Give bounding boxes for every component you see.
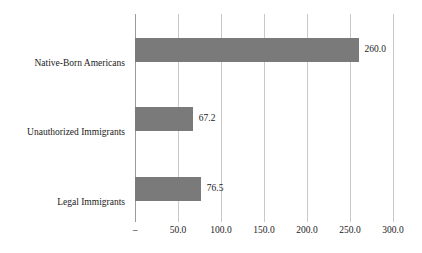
bar-chart: Native-Born Americans Unauthorized Immig…	[0, 0, 422, 253]
category-label: Legal Immigrants	[57, 198, 125, 208]
x-axis-tick-labels: – 50.0 100.0 150.0 200.0 250.0 300.0	[135, 226, 393, 246]
x-tick-label-0: –	[133, 226, 138, 236]
x-tick-label-150: 150.0	[253, 226, 274, 236]
gridline-300	[393, 14, 394, 222]
bar-native-born-americans[interactable]	[135, 38, 359, 62]
x-tick-label-100: 100.0	[210, 226, 231, 236]
bar-legal-immigrants[interactable]	[135, 177, 201, 201]
bar-unauthorized-immigrants[interactable]	[135, 107, 193, 131]
x-tick-label-250: 250.0	[339, 226, 360, 236]
bar-value-label: 260.0	[359, 45, 386, 55]
category-axis: Native-Born Americans Unauthorized Immig…	[0, 14, 130, 222]
category-label: Native-Born Americans	[35, 59, 126, 69]
plot-area: 260.0 67.2 76.5	[135, 14, 393, 222]
x-tick-label-50: 50.0	[170, 226, 187, 236]
bar-value-label: 76.5	[201, 184, 224, 194]
category-label: Unauthorized Immigrants	[27, 128, 125, 138]
x-tick-label-300: 300.0	[382, 226, 403, 236]
bar-value-label: 67.2	[193, 114, 216, 124]
x-tick-label-200: 200.0	[296, 226, 317, 236]
